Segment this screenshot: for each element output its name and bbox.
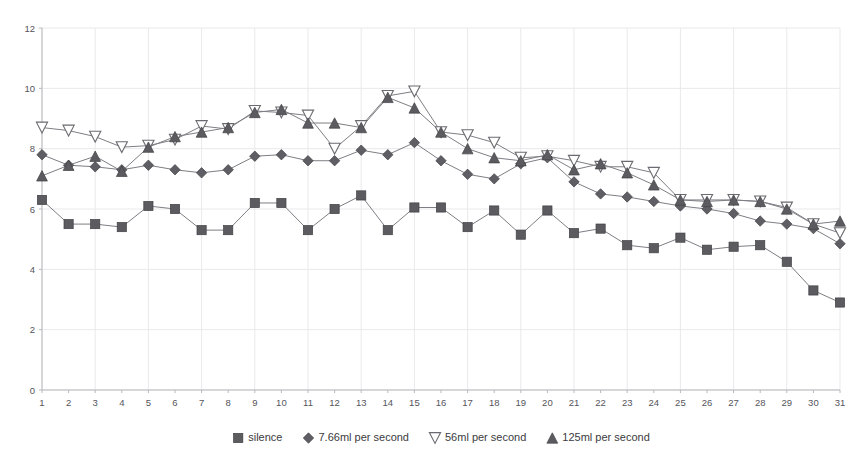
x-axis-tick-label: 12 bbox=[329, 397, 340, 408]
x-axis-tick-label: 5 bbox=[146, 397, 151, 408]
x-axis-tick-label: 20 bbox=[542, 397, 553, 408]
legend-marker bbox=[234, 433, 243, 442]
square-marker bbox=[702, 245, 711, 254]
data-point bbox=[64, 219, 73, 228]
data-point bbox=[623, 241, 632, 250]
square-marker bbox=[234, 433, 243, 442]
x-axis-tick-label: 18 bbox=[489, 397, 500, 408]
x-axis-tick-label: 7 bbox=[199, 397, 204, 408]
data-point bbox=[37, 195, 46, 204]
data-point bbox=[436, 203, 445, 212]
square-marker bbox=[303, 226, 312, 235]
data-point bbox=[383, 226, 392, 235]
data-point bbox=[596, 224, 605, 233]
data-point bbox=[676, 233, 685, 242]
square-marker bbox=[64, 219, 73, 228]
x-axis-tick-label: 23 bbox=[622, 397, 633, 408]
x-axis-tick-label: 30 bbox=[808, 397, 819, 408]
square-marker bbox=[357, 191, 366, 200]
square-marker bbox=[756, 241, 765, 250]
x-axis-tick-label: 3 bbox=[93, 397, 98, 408]
data-point bbox=[410, 203, 419, 212]
x-axis-tick-label: 4 bbox=[119, 397, 124, 408]
data-point bbox=[357, 191, 366, 200]
x-axis-tick-label: 13 bbox=[356, 397, 367, 408]
square-marker bbox=[436, 203, 445, 212]
data-point bbox=[91, 219, 100, 228]
legend-label: 125ml per second bbox=[562, 431, 649, 443]
square-marker bbox=[516, 230, 525, 239]
square-marker bbox=[835, 298, 844, 307]
x-axis-tick-label: 21 bbox=[569, 397, 580, 408]
data-point bbox=[144, 201, 153, 210]
x-axis-tick-label: 8 bbox=[226, 397, 231, 408]
square-marker bbox=[649, 244, 658, 253]
y-axis-tick-label: 6 bbox=[30, 204, 35, 215]
data-point bbox=[224, 226, 233, 235]
data-point bbox=[756, 241, 765, 250]
data-point bbox=[277, 198, 286, 207]
square-marker bbox=[596, 224, 605, 233]
chart-background bbox=[0, 0, 855, 471]
line-chart: 024681012 123456789101112131415161718192… bbox=[0, 0, 855, 471]
square-marker bbox=[250, 198, 259, 207]
data-point bbox=[649, 244, 658, 253]
data-point bbox=[330, 204, 339, 213]
data-point bbox=[569, 229, 578, 238]
x-axis-tick-label: 15 bbox=[409, 397, 420, 408]
legend-item[interactable]: 7.66ml per second bbox=[303, 431, 409, 443]
square-marker bbox=[197, 226, 206, 235]
data-point bbox=[835, 298, 844, 307]
x-axis-tick-label: 2 bbox=[66, 397, 71, 408]
data-point bbox=[170, 204, 179, 213]
data-point bbox=[516, 230, 525, 239]
data-point bbox=[463, 223, 472, 232]
legend-label: 7.66ml per second bbox=[318, 431, 409, 443]
square-marker bbox=[277, 198, 286, 207]
x-axis-tick-label: 24 bbox=[649, 397, 660, 408]
square-marker bbox=[543, 206, 552, 215]
square-marker bbox=[782, 257, 791, 266]
x-axis-tick-label: 31 bbox=[835, 397, 846, 408]
data-point bbox=[809, 286, 818, 295]
square-marker bbox=[809, 286, 818, 295]
x-axis-tick-label: 1 bbox=[39, 397, 44, 408]
x-axis-tick-label: 9 bbox=[252, 397, 257, 408]
data-point bbox=[490, 206, 499, 215]
data-point bbox=[702, 245, 711, 254]
y-axis-tick-label: 8 bbox=[30, 143, 35, 154]
y-axis-tick-label: 10 bbox=[24, 83, 35, 94]
square-marker bbox=[330, 204, 339, 213]
x-axis-tick-label: 10 bbox=[276, 397, 287, 408]
legend-item[interactable]: 125ml per second bbox=[547, 431, 650, 443]
x-axis-tick-label: 17 bbox=[462, 397, 473, 408]
square-marker bbox=[623, 241, 632, 250]
square-marker bbox=[729, 242, 738, 251]
x-axis-tick-label: 26 bbox=[702, 397, 713, 408]
x-axis-tick-label: 6 bbox=[172, 397, 177, 408]
x-axis-tick-label: 28 bbox=[755, 397, 766, 408]
square-marker bbox=[117, 223, 126, 232]
data-point bbox=[197, 226, 206, 235]
data-point bbox=[303, 226, 312, 235]
data-point bbox=[782, 257, 791, 266]
x-axis-tick-label: 14 bbox=[383, 397, 394, 408]
square-marker bbox=[170, 204, 179, 213]
square-marker bbox=[490, 206, 499, 215]
data-point bbox=[250, 198, 259, 207]
x-axis-tick-label: 11 bbox=[303, 397, 313, 408]
y-axis-tick-label: 0 bbox=[30, 385, 35, 396]
square-marker bbox=[410, 203, 419, 212]
legend-label: silence bbox=[248, 431, 282, 443]
square-marker bbox=[91, 219, 100, 228]
square-marker bbox=[144, 201, 153, 210]
square-marker bbox=[383, 226, 392, 235]
x-axis-tick-label: 19 bbox=[516, 397, 527, 408]
x-axis-tick-label: 27 bbox=[728, 397, 739, 408]
data-point bbox=[729, 242, 738, 251]
square-marker bbox=[676, 233, 685, 242]
chart-container: 024681012 123456789101112131415161718192… bbox=[0, 0, 855, 471]
x-axis-tick-label: 22 bbox=[595, 397, 606, 408]
x-axis-tick-label: 29 bbox=[782, 397, 793, 408]
legend-label: 56ml per second bbox=[445, 431, 526, 443]
